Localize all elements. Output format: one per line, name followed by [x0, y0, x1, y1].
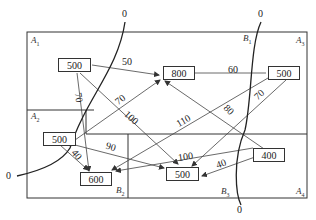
zone-label-b2: B2 — [116, 185, 125, 197]
cut-line-right — [236, 22, 261, 205]
node-b2: 600 — [80, 172, 112, 186]
node-a3: 500 — [268, 66, 300, 80]
node-a1: 500 — [58, 58, 91, 72]
edge-label-a1-b2: 70 — [73, 92, 86, 104]
zone-label-a1: A1 — [31, 35, 40, 47]
node-a4: 400 — [253, 148, 285, 162]
zone-label-a2: A2 — [31, 111, 40, 123]
node-b1: 800 — [163, 66, 195, 80]
zone-label-a4: A4 — [296, 186, 305, 198]
zone-label-b1: B1 — [243, 33, 252, 45]
cut-left-top-label: 0 — [122, 8, 127, 19]
cut-left-bottom-label: 0 — [6, 170, 11, 181]
edge-label-a3-b1: 60 — [228, 64, 238, 75]
edge-label-a4-b2: 100 — [177, 150, 193, 163]
edge-label-a1-b1: 50 — [122, 56, 132, 67]
zone-label-a3: A3 — [296, 35, 305, 47]
cut-right-bottom-label: 0 — [237, 204, 242, 215]
cut-right-top-label: 0 — [258, 8, 263, 19]
transport-network-diagram: 0 0 0 0 A1 A2 A3 A4 B1 B2 B3 500 800 500… — [0, 0, 316, 220]
node-b3: 500 — [166, 167, 199, 181]
node-a2: 500 — [43, 132, 76, 146]
diagram-lines — [0, 0, 316, 220]
zone-label-b3: B3 — [221, 186, 230, 198]
